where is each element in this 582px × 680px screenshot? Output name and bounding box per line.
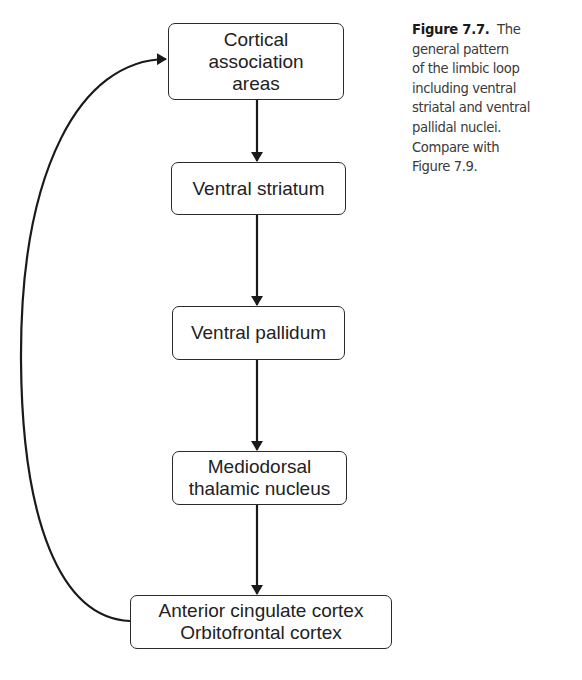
- node-cortical-association-areas: Cortical association areas: [168, 23, 344, 100]
- caption-text: Compare with: [412, 138, 582, 158]
- caption-text: general pattern: [412, 40, 582, 60]
- node-label: Ventral pallidum: [191, 322, 326, 344]
- figure-label: Figure 7.7.: [412, 22, 489, 37]
- caption-text: including ventral: [412, 79, 582, 99]
- caption-line-1: Figure 7.7. The: [412, 20, 582, 40]
- node-label: Orbitofrontal cortex: [180, 622, 342, 644]
- node-ventral-pallidum: Ventral pallidum: [172, 306, 345, 360]
- caption-text: Figure 7.9.: [412, 157, 582, 177]
- node-anterior-cingulate-orbitofrontal: Anterior cingulate cortex Orbitofrontal …: [130, 595, 392, 649]
- node-label: Mediodorsal: [208, 456, 312, 478]
- node-label: Ventral striatum: [193, 178, 325, 200]
- node-label: Anterior cingulate cortex: [159, 600, 364, 622]
- node-label: association: [208, 51, 303, 73]
- feedback-arrow-cingulate-to-cortical: [21, 59, 166, 621]
- node-label: thalamic nucleus: [189, 478, 331, 500]
- caption-text: striatal and ventral: [412, 98, 582, 118]
- caption-text: pallidal nuclei.: [412, 118, 582, 138]
- node-mediodorsal-thalamic-nucleus: Mediodorsal thalamic nucleus: [172, 451, 347, 505]
- caption-text: The: [497, 22, 520, 37]
- node-label: Cortical: [224, 29, 288, 51]
- node-label: areas: [232, 73, 280, 95]
- caption-text: of the limbic loop: [412, 59, 582, 79]
- node-ventral-striatum: Ventral striatum: [171, 162, 346, 215]
- figure-caption: Figure 7.7. The general pattern of the l…: [412, 20, 582, 177]
